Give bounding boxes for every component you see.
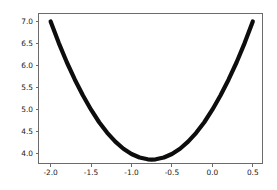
chart-figure: -2.0-1.5-1.0-0.50.00.54.04.55.05.56.06.5… — [0, 0, 277, 190]
axes-background — [39, 14, 263, 164]
x-tick-label: -1.0 — [124, 168, 139, 177]
x-tick-label: -0.5 — [165, 168, 180, 177]
y-tick-label: 7.0 — [21, 17, 33, 26]
y-tick-label: 6.5 — [21, 39, 33, 48]
y-tick-label: 5.5 — [21, 83, 33, 92]
plot-canvas: -2.0-1.5-1.0-0.50.00.54.04.55.05.56.06.5… — [0, 0, 277, 190]
x-tick-label: -2.0 — [43, 168, 58, 177]
y-tick-label: 4.5 — [21, 127, 33, 136]
x-tick-label: 0.5 — [247, 168, 259, 177]
x-tick-label: 0.0 — [206, 168, 218, 177]
y-tick-label: 5.0 — [21, 105, 33, 114]
y-tick-label: 4.0 — [21, 149, 33, 158]
x-tick-label: -1.5 — [84, 168, 99, 177]
y-tick-label: 6.0 — [21, 61, 33, 70]
